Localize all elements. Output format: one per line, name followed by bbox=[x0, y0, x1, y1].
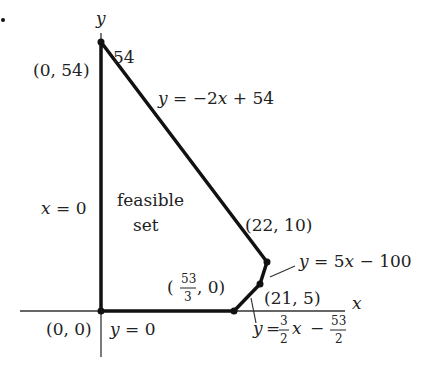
leader-line-5x-100 bbox=[270, 266, 295, 277]
svg-text:3: 3 bbox=[280, 314, 288, 328]
svg-text:x: x bbox=[292, 318, 302, 338]
svg-text:, 0): , 0) bbox=[197, 277, 225, 297]
vertex-21-5 bbox=[257, 281, 264, 288]
svg-text:=: = bbox=[266, 318, 280, 338]
svg-text:2: 2 bbox=[335, 332, 343, 346]
vertex-0-54 bbox=[98, 39, 105, 46]
vertex-22-10 bbox=[264, 259, 271, 266]
svg-text:2: 2 bbox=[280, 332, 288, 346]
constraint-top-label: y = −2x + 54 bbox=[157, 88, 274, 108]
feasible-region-diagram: x y 54 (0, 54) y = −2x + 54 x = 0 feasib… bbox=[0, 0, 442, 386]
constraint-left-label: x = 0 bbox=[41, 198, 86, 218]
vertex-label-0-0: (0, 0) bbox=[46, 319, 92, 339]
vertex-label-0-54: (0, 54) bbox=[33, 60, 90, 80]
svg-text:(: ( bbox=[167, 277, 174, 297]
constraint-bottom-label: y = 0 bbox=[109, 319, 155, 339]
constraint-right-lower-label: y = 3 2 x − 53 2 bbox=[252, 314, 346, 346]
vertex-53over3-0 bbox=[231, 308, 238, 315]
constraint-right-upper-label: y = 5x − 100 bbox=[298, 251, 412, 271]
region-label-line2: set bbox=[133, 215, 159, 235]
svg-text:−: − bbox=[310, 318, 324, 338]
feasible-region-boundary bbox=[101, 42, 267, 311]
vertex-label-53over3-0: ( 53 3 , 0) bbox=[167, 272, 225, 304]
svg-text:y: y bbox=[252, 318, 263, 338]
svg-text:53: 53 bbox=[181, 272, 196, 286]
region-label-line1: feasible bbox=[117, 190, 184, 210]
bullet-dot bbox=[1, 18, 5, 22]
svg-text:53: 53 bbox=[331, 314, 346, 328]
vertex-label-22-10: (22, 10) bbox=[245, 215, 312, 235]
x-axis-label: x bbox=[352, 293, 362, 313]
y-axis-label: y bbox=[95, 8, 106, 28]
vertex-label-21-5: (21, 5) bbox=[264, 288, 321, 308]
y-tick-54: 54 bbox=[113, 47, 135, 67]
svg-text:3: 3 bbox=[184, 290, 192, 304]
vertex-0-0 bbox=[98, 308, 105, 315]
